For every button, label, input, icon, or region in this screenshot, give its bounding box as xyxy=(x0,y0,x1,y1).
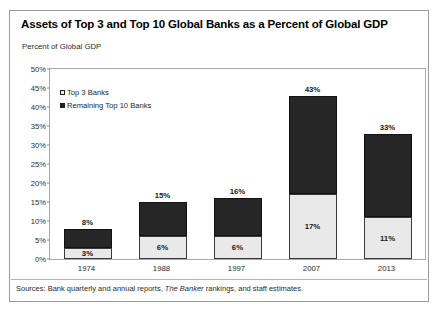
source-note-suffix: rankings, and staff estimates. xyxy=(204,284,304,293)
y-axis-tick-label: 35% xyxy=(31,122,46,131)
bar-series-container: 3%8%6%15%6%16%17%43%11%33% xyxy=(50,69,425,259)
bar-stack: 11% xyxy=(364,134,412,259)
bar-segment-top-3-banks[interactable]: 3% xyxy=(64,248,112,259)
y-axis-tick-label: 20% xyxy=(31,179,46,188)
bar-total-label: 33% xyxy=(364,123,412,132)
y-axis-tick-label: 45% xyxy=(31,84,46,93)
bar-stack: 6% xyxy=(214,198,262,259)
x-axis: 19741988199720072013 xyxy=(49,262,426,276)
bar-group[interactable]: 3%8% xyxy=(64,69,112,259)
y-axis-tick-label: 10% xyxy=(31,217,46,226)
divider xyxy=(11,279,427,280)
y-axis-tick-label: 15% xyxy=(31,198,46,207)
bar-segment-remaining-top-10-banks[interactable] xyxy=(64,229,112,248)
x-axis-tick-label: 1997 xyxy=(213,264,261,273)
y-axis-tick-label: 25% xyxy=(31,160,46,169)
bar-stack: 3% xyxy=(64,229,112,259)
bar-group[interactable]: 6%15% xyxy=(139,69,187,259)
bar-segment-top-3-banks[interactable]: 6% xyxy=(139,236,187,259)
bar-total-label: 43% xyxy=(289,85,337,94)
bar-segment-remaining-top-10-banks[interactable] xyxy=(289,96,337,195)
chart-figure: Assets of Top 3 and Top 10 Global Banks … xyxy=(9,10,429,302)
bar-group[interactable]: 11%33% xyxy=(364,69,412,259)
y-axis-tick-label: 50% xyxy=(31,65,46,74)
plot-area: 0%5%10%15%20%25%30%35%40%45%50% Top 3 Ba… xyxy=(49,68,426,260)
bar-group[interactable]: 17%43% xyxy=(289,69,337,259)
bar-segment-value-label: 11% xyxy=(380,234,395,243)
bar-segment-remaining-top-10-banks[interactable] xyxy=(139,202,187,236)
y-axis-tick-label: 30% xyxy=(31,141,46,150)
bar-segment-remaining-top-10-banks[interactable] xyxy=(364,134,412,218)
bar-total-label: 8% xyxy=(64,218,112,227)
x-axis-tick-label: 2007 xyxy=(288,264,336,273)
bar-segment-remaining-top-10-banks[interactable] xyxy=(214,198,262,236)
bar-stack: 6% xyxy=(139,202,187,259)
bar-segment-top-3-banks[interactable]: 6% xyxy=(214,236,262,259)
y-axis-tick-label: 40% xyxy=(31,103,46,112)
source-note: Sources: Bank quarterly and annual repor… xyxy=(16,284,422,293)
source-note-publication: The Banker xyxy=(165,284,204,293)
chart-title: Assets of Top 3 and Top 10 Global Banks … xyxy=(21,18,388,30)
bar-total-label: 15% xyxy=(139,191,187,200)
bar-segment-top-3-banks[interactable]: 11% xyxy=(364,217,412,259)
bar-segment-value-label: 17% xyxy=(305,222,321,231)
source-note-prefix: Sources: Bank quarterly and annual repor… xyxy=(16,284,165,293)
bar-group[interactable]: 6%16% xyxy=(214,69,262,259)
x-axis-tick-label: 1988 xyxy=(138,264,186,273)
bar-segment-value-label: 3% xyxy=(82,249,93,258)
y-axis-tick-label: 5% xyxy=(35,236,46,245)
x-axis-tick-label: 2013 xyxy=(363,264,411,273)
y-axis-tick-label: 0% xyxy=(35,255,46,264)
bar-segment-value-label: 6% xyxy=(232,243,243,252)
bar-segment-value-label: 6% xyxy=(157,243,168,252)
bar-total-label: 16% xyxy=(214,187,262,196)
x-axis-tick-label: 1974 xyxy=(63,264,111,273)
y-axis-units-label: Percent of Global GDP xyxy=(22,42,101,51)
bar-stack: 17% xyxy=(289,96,337,259)
bar-segment-top-3-banks[interactable]: 17% xyxy=(289,194,337,259)
